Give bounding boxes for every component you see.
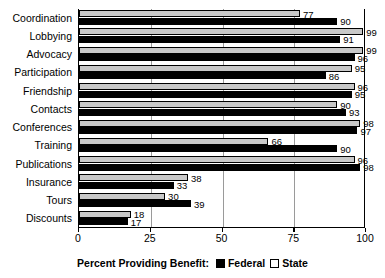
bar-state: [79, 156, 355, 163]
x-tick-label: 50: [216, 233, 228, 244]
bar-group: 9586: [79, 64, 364, 82]
category-label: Training: [0, 140, 72, 151]
category-label: Insurance: [0, 177, 72, 188]
category-label: Advocacy: [0, 49, 72, 60]
bar-federal: [79, 218, 128, 225]
bar-value-label: 99: [366, 28, 377, 38]
bar-state: [79, 28, 363, 35]
legend-label-state: State: [282, 257, 308, 269]
bar-value-label: 33: [177, 181, 188, 191]
bar-state: [79, 138, 268, 145]
bar-state: [79, 174, 188, 181]
bar-value-label: 90: [340, 145, 351, 155]
bar-group: 7790: [79, 9, 364, 27]
bar-state: [79, 193, 165, 200]
category-label: Lobbying: [0, 31, 72, 42]
bar-value-label: 96: [358, 54, 369, 64]
bar-group: 6690: [79, 137, 364, 155]
bar-value-label: 95: [355, 90, 366, 100]
x-tick-label: 0: [75, 233, 81, 244]
category-axis: CoordinationLobbyingAdvocacyParticipatio…: [0, 9, 75, 228]
bar-group: 9698: [79, 155, 364, 173]
bar-value-label: 17: [131, 218, 142, 228]
bar-group: 9093: [79, 100, 364, 118]
bar-group: 3833: [79, 173, 364, 191]
x-tick-label: 100: [356, 233, 374, 244]
category-label: Participation: [0, 67, 72, 78]
bar-value-label: 97: [360, 127, 371, 137]
bar-chart: CoordinationLobbyingAdvocacyParticipatio…: [0, 0, 385, 278]
bar-federal: [79, 182, 174, 189]
bars-layer: 7790999199969586969590939897669096983833…: [79, 9, 364, 227]
bar-federal: [79, 18, 337, 25]
x-tick-label: 25: [144, 233, 156, 244]
bar-federal: [79, 109, 346, 116]
bar-federal: [79, 164, 360, 171]
bar-state: [79, 65, 352, 72]
x-axis-label: Percent Providing Benefit:: [77, 257, 209, 269]
x-axis: 0255075100: [78, 228, 365, 246]
category-label: Conferences: [0, 122, 72, 133]
bar-group: 3039: [79, 192, 364, 210]
bar-value-label: 93: [349, 108, 360, 118]
bar-federal: [79, 91, 352, 98]
category-label: Tours: [0, 195, 72, 206]
bar-state: [79, 10, 300, 17]
bar-value-label: 86: [329, 72, 340, 82]
bar-federal: [79, 127, 357, 134]
bar-group: 9897: [79, 119, 364, 137]
bar-value-label: 95: [355, 64, 366, 74]
bar-federal: [79, 145, 337, 152]
bar-state: [79, 120, 360, 127]
bar-value-label: 38: [191, 174, 202, 184]
bar-federal: [79, 72, 326, 79]
category-label: Friendship: [0, 86, 72, 97]
bar-value-label: 90: [340, 17, 351, 27]
bar-value-label: 98: [363, 163, 374, 173]
bar-federal: [79, 54, 355, 61]
legend-item-state: State: [270, 257, 308, 269]
bar-state: [79, 211, 131, 218]
category-label: Publications: [0, 159, 72, 170]
x-tick-label: 75: [287, 233, 299, 244]
state-swatch-icon: [270, 259, 279, 268]
bar-federal: [79, 36, 340, 43]
bar-value-label: 91: [343, 35, 354, 45]
legend-item-federal: Federal: [216, 257, 265, 269]
category-label: Contacts: [0, 104, 72, 115]
bar-state: [79, 101, 337, 108]
bar-group: 9991: [79, 27, 364, 45]
legend-label-federal: Federal: [228, 257, 265, 269]
category-label: Discounts: [0, 213, 72, 224]
bar-state: [79, 47, 363, 54]
bar-state: [79, 83, 355, 90]
federal-swatch-icon: [216, 259, 225, 268]
bar-value-label: 39: [194, 200, 205, 210]
bar-group: 1817: [79, 210, 364, 228]
bar-group: 9695: [79, 82, 364, 100]
plot-area: 7790999199969586969590939897669096983833…: [78, 9, 365, 228]
category-label: Coordination: [0, 13, 72, 24]
bar-federal: [79, 200, 191, 207]
legend: Percent Providing Benefit: Federal State: [0, 255, 385, 271]
bar-group: 9996: [79, 46, 364, 64]
